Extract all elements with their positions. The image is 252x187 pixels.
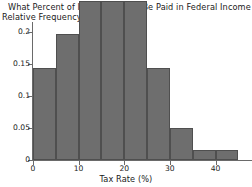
y-tick-label: 0: [25, 155, 30, 164]
y-tick-label: 0.05: [13, 123, 30, 132]
histogram-bar: [33, 68, 56, 160]
x-axis-label: Tax Rate (%): [0, 174, 252, 184]
x-tick-label: 40: [211, 164, 221, 173]
x-tick-label: 10: [74, 164, 84, 173]
plot-area: [33, 22, 252, 160]
histogram-bar: [79, 1, 102, 160]
histogram-bar: [147, 68, 170, 160]
histogram-bar: [170, 128, 193, 160]
y-tick-label: 0.15: [13, 59, 30, 68]
histogram-bar: [193, 150, 216, 160]
x-axis-line: [32, 160, 252, 161]
y-tick-label: 0.2: [18, 27, 30, 36]
x-tick-label: 0: [31, 164, 36, 173]
x-tick-label: 20: [119, 164, 129, 173]
histogram-bar: [216, 150, 239, 160]
y-tick-label: 0.1: [18, 91, 30, 100]
x-tick-label: 30: [165, 164, 175, 173]
histogram-bar: [56, 34, 79, 160]
histogram-bar: [101, 1, 124, 160]
histogram-bar: [124, 1, 147, 160]
y-axis-label: Relative Frequency: [2, 12, 82, 22]
histogram-figure: What Percent of Income Should Be Paid in…: [0, 0, 252, 187]
